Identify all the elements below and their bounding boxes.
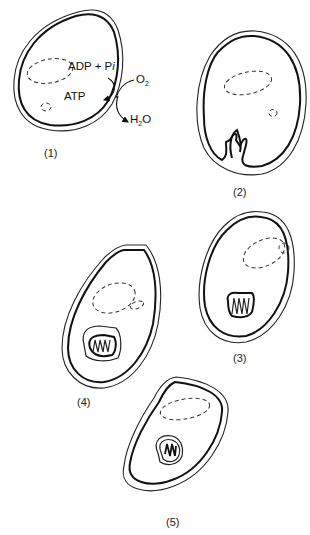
cell-panel-2 — [197, 31, 306, 175]
diagram-canvas: .outer { fill: none; stroke: #222; strok… — [0, 0, 310, 535]
water-label: H2O — [130, 113, 151, 127]
panel-label-5: (5) — [166, 516, 179, 528]
panel-label-4: (4) — [77, 396, 90, 408]
cell-panel-5 — [123, 377, 228, 491]
panel-label-3: (3) — [233, 352, 246, 364]
cell-panel-4 — [62, 245, 161, 388]
cell-panel-3 — [199, 212, 294, 343]
panel-label-2: (2) — [233, 186, 246, 198]
panel-label-1: (1) — [44, 147, 57, 159]
atp-label: ATP — [64, 90, 86, 102]
oxygen-label: O2 — [136, 73, 149, 87]
reactants-label: ADP + Pi — [68, 60, 115, 72]
